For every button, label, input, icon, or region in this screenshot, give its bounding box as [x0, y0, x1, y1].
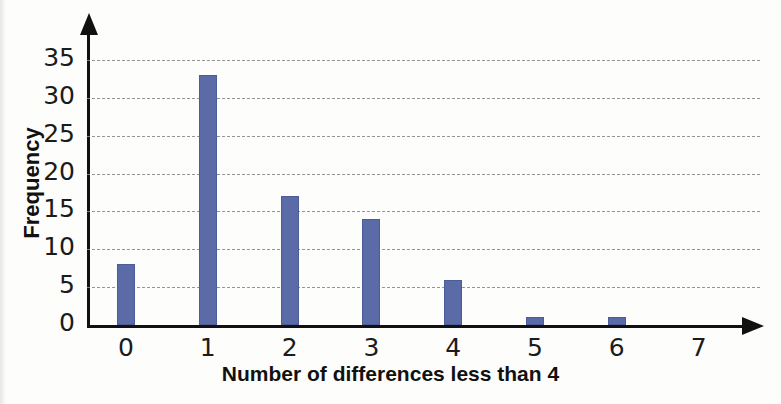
- x-axis-label: Number of differences less than 4: [0, 362, 781, 386]
- x-tick-label: 3: [351, 333, 391, 362]
- y-tick-label: 35: [21, 43, 75, 72]
- y-tick-label: 0: [21, 308, 75, 337]
- right-arrow-icon: [742, 317, 764, 335]
- bar: [281, 196, 299, 325]
- bar: [608, 317, 626, 325]
- up-arrow-icon: [80, 13, 98, 35]
- x-tick-label: 4: [433, 333, 473, 362]
- x-tick-label: 5: [515, 333, 555, 362]
- x-tick-label: 0: [106, 333, 146, 362]
- x-axis-line: [87, 325, 742, 328]
- gridline: [87, 211, 760, 212]
- x-tick-label: 6: [597, 333, 637, 362]
- y-axis-line: [87, 35, 90, 325]
- y-tick-label: 25: [21, 119, 75, 148]
- bar: [199, 75, 217, 325]
- gridline: [87, 174, 760, 175]
- bar: [117, 264, 135, 325]
- y-tick-label: 5: [21, 270, 75, 299]
- gridline: [87, 287, 760, 288]
- y-tick-label: 30: [21, 81, 75, 110]
- gridline: [87, 136, 760, 137]
- bar: [526, 317, 544, 325]
- y-tick-label: 20: [21, 157, 75, 186]
- y-tick-label: 15: [21, 194, 75, 223]
- x-tick-label: 2: [270, 333, 310, 362]
- bar: [362, 219, 380, 325]
- bar-chart: Frequency Number of differences less tha…: [0, 0, 781, 404]
- chart-page: Frequency Number of differences less tha…: [0, 0, 781, 404]
- y-tick-label: 10: [21, 232, 75, 261]
- gridline: [87, 98, 760, 99]
- x-tick-label: 1: [188, 333, 228, 362]
- bar: [444, 280, 462, 325]
- gridline: [87, 60, 760, 61]
- x-tick-label: 7: [679, 333, 719, 362]
- gridline: [87, 249, 760, 250]
